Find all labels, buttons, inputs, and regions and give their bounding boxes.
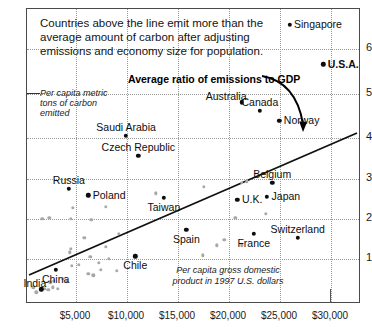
data-point-minor xyxy=(107,257,110,260)
data-point-minor xyxy=(264,212,267,215)
data-point-label-spain: Spain xyxy=(173,234,200,245)
data-point-u-s-a xyxy=(321,62,325,66)
data-point-minor xyxy=(90,218,93,221)
data-point-minor xyxy=(92,274,95,277)
data-point-china xyxy=(53,268,57,272)
data-point-minor xyxy=(215,243,218,246)
data-point-russia xyxy=(67,187,71,191)
data-point-label-taiwan: Taiwan xyxy=(148,202,181,213)
data-point-label-france: France xyxy=(237,238,270,249)
data-point-label-russia: Russia xyxy=(53,175,85,186)
data-point-spain xyxy=(184,228,188,232)
data-point-label-saudi-arabia: Saudi Arabia xyxy=(96,122,156,133)
data-point-minor xyxy=(99,268,102,271)
data-point-label-canada: Canada xyxy=(242,97,279,108)
data-point-taiwan xyxy=(162,195,166,199)
data-point-saudi-arabia xyxy=(124,133,128,137)
data-point-minor xyxy=(48,216,51,219)
data-point-label-australia: Australia xyxy=(206,91,247,102)
carbon-emissions-scatter-chart: 6 5 4 3 2 1 $5,000 $10,000 $15,000 $20,0… xyxy=(0,0,372,333)
data-point-minor xyxy=(202,185,205,188)
data-point-canada xyxy=(258,109,262,113)
data-point-minor xyxy=(41,217,44,220)
data-point-minor xyxy=(71,206,74,209)
data-point-norway xyxy=(277,119,281,123)
data-point-minor xyxy=(222,238,225,241)
data-point-label-japan: Japan xyxy=(272,191,301,202)
data-point-minor xyxy=(69,247,72,250)
data-point-japan xyxy=(265,195,269,199)
data-point-minor xyxy=(56,287,59,290)
data-point-france xyxy=(252,232,256,236)
data-point-minor xyxy=(104,205,107,208)
data-point-minor xyxy=(51,286,54,289)
data-point-belgium xyxy=(270,181,274,185)
data-point-singapore xyxy=(287,22,291,26)
data-point-label-chile: Chile xyxy=(123,260,147,271)
data-point-minor xyxy=(69,217,72,220)
data-point-u-k xyxy=(235,198,239,202)
data-point-minor xyxy=(240,181,243,184)
data-point-minor xyxy=(201,254,204,257)
data-point-minor xyxy=(245,180,248,183)
data-point-minor xyxy=(83,236,86,239)
data-point-label-belgium: Belgium xyxy=(253,169,291,180)
data-point-minor xyxy=(154,192,157,195)
data-point-minor xyxy=(104,245,107,248)
data-point-minor xyxy=(117,232,120,235)
data-point-label-poland: Poland xyxy=(93,190,126,201)
data-point-minor xyxy=(70,264,73,267)
data-points-layer: SingaporeU.S.A.AustraliaCanadaNorwaySaud… xyxy=(0,0,372,333)
data-point-minor xyxy=(87,272,90,275)
data-point-minor xyxy=(47,288,50,291)
data-point-label-u-k: U.K. xyxy=(242,194,262,205)
data-point-minor xyxy=(97,261,100,264)
data-point-poland xyxy=(86,193,90,197)
data-point-minor xyxy=(77,263,80,266)
data-point-minor xyxy=(115,269,118,272)
data-point-label-czech-republic: Czech Republic xyxy=(102,142,176,153)
data-point-label-u-s-a: U.S.A. xyxy=(328,59,359,70)
data-point-minor xyxy=(68,251,71,254)
data-point-minor xyxy=(234,216,237,219)
data-point-minor xyxy=(89,255,92,258)
data-point-chile xyxy=(133,254,137,258)
data-point-label-norway: Norway xyxy=(284,115,320,126)
data-point-czech-republic xyxy=(136,153,140,157)
data-point-switzerland xyxy=(296,235,300,239)
data-point-label-india: India xyxy=(24,278,47,289)
data-point-label-switzerland: Switzerland xyxy=(271,224,325,235)
data-point-label-singapore: Singapore xyxy=(294,19,342,30)
data-point-minor xyxy=(34,291,37,294)
